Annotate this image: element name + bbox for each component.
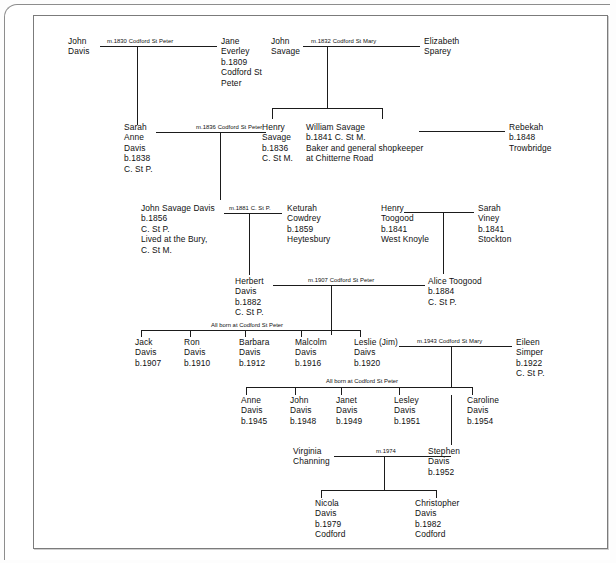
person-name-line: Trowbridge (509, 143, 552, 153)
sibling-drop-caroline (472, 387, 473, 395)
person-name-line: Herbert (235, 276, 264, 286)
sibling-drop-leslie (360, 330, 361, 337)
sibling-drop-jack (141, 330, 142, 337)
person-henry-toogood: Henry Toogood b.1841 West Knoyle (381, 203, 429, 245)
person-name-line: Anne (124, 132, 153, 142)
person-name-line: Christopher (415, 498, 459, 508)
person-jane-everley: Jane Everley b.1809 Codford St Peter (221, 36, 262, 88)
marriage-label-john-keturah: m.1881 C. St P. (229, 205, 271, 212)
sibling-drop-anne (246, 387, 247, 395)
person-barbara-davis: Barbara Davis b.1912 (239, 337, 270, 368)
marriage-line-gen1-davis (100, 46, 217, 47)
person-name-line: Davis (394, 405, 420, 415)
person-elizabeth-sparey: Elizabeth Sparey (424, 36, 459, 57)
person-name-line: b.1982 (415, 519, 459, 529)
person-name-line: b.1912 (239, 358, 270, 368)
marriage-line-gen3-davis (224, 213, 282, 214)
person-name-line: Leslie (Jim) (354, 337, 398, 347)
person-name-line: Davis (241, 405, 267, 415)
person-name-line: b.1848 (509, 132, 552, 142)
person-john-savage: John Savage (271, 36, 300, 57)
person-name-line: Sparey (424, 46, 459, 56)
person-name-line: b.1916 (295, 358, 327, 368)
descent-line-stephen (451, 395, 452, 445)
person-name-line: b.1841 (381, 224, 429, 234)
marriage-label-herbert-alice: m.1907 Codford St Peter (308, 277, 374, 284)
person-eileen-simper: Eileen Simper b.1922 C. St P. (516, 337, 545, 379)
person-name-line: Janet (336, 395, 362, 405)
marriage-label-john-davis-jane-everley: m.1830 Codford St Peter (107, 38, 173, 45)
person-name-line: Henry (262, 122, 293, 132)
person-name-line: Jack (135, 337, 161, 347)
person-name-line: Caroline (467, 395, 499, 405)
person-name-line: b.1841 C. St M. (306, 132, 423, 142)
person-lesley-davis: Lesley Davis b.1951 (394, 395, 420, 426)
person-name-line: Ron (184, 337, 210, 347)
person-nicola-davis: Nicola Davis b.1979 Codford (315, 498, 346, 540)
person-name-line: John Savage Davis (141, 203, 215, 213)
descent-line-gen7 (384, 456, 385, 490)
person-name-line: b.1979 (315, 519, 346, 529)
person-name-line: C. St P. (428, 297, 482, 307)
person-jack-davis: Jack Davis b.1907 (135, 337, 161, 368)
person-name-line: Channing (293, 456, 330, 466)
sibling-drop-christopher (436, 490, 437, 498)
person-name-line: C. St P. (124, 164, 153, 174)
person-name-line: b.1949 (336, 416, 362, 426)
marriage-line-gen2 (156, 132, 266, 133)
sibling-drop-janet (341, 387, 342, 395)
descent-line-gen3-toogood (443, 212, 444, 274)
sibling-drop-lesley (399, 387, 400, 395)
descent-line-gen1-davis (137, 46, 138, 125)
person-name-line: b.1809 (221, 57, 262, 67)
marriage-label-sarah-henry: m.1836 Codford St Peter (196, 124, 262, 131)
person-name-line: John (290, 395, 316, 405)
person-name-line: Heytesbury (287, 234, 330, 244)
marriage-line-william-rebekah (419, 131, 505, 132)
sibling-note-gen5: All born at Codford St Peter (211, 322, 283, 329)
person-name-line: Savage (271, 46, 300, 56)
sibling-drop-john (295, 387, 296, 395)
person-name-line: Eileen (516, 337, 545, 347)
person-name-line: at Chitterne Road (306, 153, 423, 163)
person-name-line: Jane (221, 36, 262, 46)
marriage-line-gen4 (273, 285, 425, 286)
person-john-savage-davis: John Savage Davis b.1856 C. St P. Lived … (141, 203, 215, 255)
descent-line-gen4 (331, 285, 332, 335)
person-name-line: b.1836 (262, 143, 293, 153)
person-name-line: b.1920 (354, 358, 398, 368)
person-leslie-jim-davis: Leslie (Jim) Daivs b.1920 (354, 337, 398, 368)
person-alice-toogood: Alice Toogood b.1884 C. St P. (428, 276, 482, 307)
person-name-line: b.1882 (235, 297, 264, 307)
person-name-line: Anne (241, 395, 267, 405)
person-name-line: West Knoyle (381, 234, 429, 244)
person-name-line: Viney (478, 213, 511, 223)
sibling-drop-henry-savage (272, 108, 273, 119)
scanned-page: John Davis m.1830 Codford St Peter Jane … (0, 0, 616, 563)
person-rebekah: Rebekah b.1848 Trowbridge (509, 122, 552, 153)
person-malcolm-davis: Malcolm Davis b.1916 (295, 337, 327, 368)
person-name-line: b.1856 (141, 213, 215, 223)
person-name-line: Virginia (293, 446, 330, 456)
person-name-line: b.1951 (394, 416, 420, 426)
descent-line-gen2 (220, 132, 221, 200)
person-keturah-cowdrey: Keturah Cowdrey b.1859 Heytesbury (287, 203, 330, 245)
person-name-line: b.1859 (287, 224, 330, 234)
person-name-line: b.1948 (290, 416, 316, 426)
person-name-line: Codford (315, 529, 346, 539)
person-name-line: b.1838 (124, 153, 153, 163)
person-name-line: b.1952 (428, 467, 460, 477)
person-name-line: Baker and general shopkeeper (306, 143, 423, 153)
sibling-drop-ron (190, 330, 191, 337)
sibling-bar-gen8 (321, 490, 436, 491)
person-anne-davis: Anne Davis b.1945 (241, 395, 267, 426)
person-name-line: b.1922 (516, 358, 545, 368)
person-name-line: Malcolm (295, 337, 327, 347)
person-name-line: Davis (415, 508, 459, 518)
person-name-line: Cowdrey (287, 213, 330, 223)
marriage-line-gen1-savage (303, 46, 420, 47)
person-name-line: John (68, 36, 89, 46)
person-name-line: C. St M. (262, 153, 293, 163)
descent-line-gen1-savage (327, 46, 328, 108)
person-name-line: b.1841 (478, 224, 511, 234)
